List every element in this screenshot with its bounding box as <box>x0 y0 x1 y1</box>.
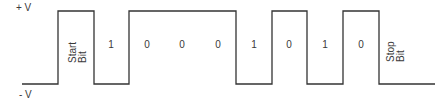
bit-8: 0 <box>351 40 371 50</box>
start-bit-label: Start Bit <box>68 42 88 63</box>
serial-waveform-diagram: + V - V Start Bit 1 0 0 0 1 0 1 0 Stop B… <box>0 0 446 100</box>
bit-4: 0 <box>208 40 228 50</box>
high-voltage-label: + V <box>16 3 31 13</box>
bit-2: 0 <box>137 40 157 50</box>
bit-7: 1 <box>315 40 335 50</box>
bit-1: 1 <box>101 40 121 50</box>
low-voltage-label: - V <box>19 90 32 100</box>
bit-5: 1 <box>244 40 264 50</box>
stop-bit-label: Stop Bit <box>386 41 406 62</box>
bit-6: 0 <box>279 40 299 50</box>
bit-3: 0 <box>172 40 192 50</box>
